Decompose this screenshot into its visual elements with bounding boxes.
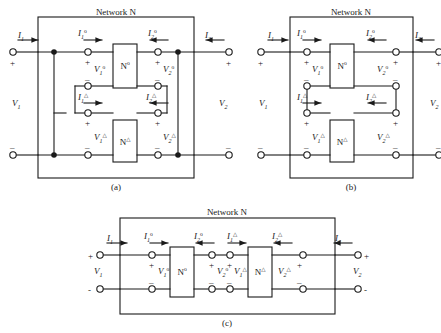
panel-a-port-ntri-2plus[interactable] (155, 110, 161, 116)
panel-b-port-ntri-2plus[interactable] (393, 110, 399, 116)
panel-a-port-ntri-1minus[interactable] (85, 152, 91, 158)
panel-b (258, 17, 441, 178)
panel-a-port-no-2plus[interactable] (155, 49, 161, 55)
panel-a-port-ntri-1plus[interactable] (85, 110, 91, 116)
panel-b-label-V2: V2 (430, 98, 439, 110)
panel-c-terminal-out-minus[interactable] (355, 286, 361, 292)
panel-a-block-no-label: No (120, 60, 130, 71)
panel-c-sign-no1-minus: – (148, 277, 154, 287)
panel-b-sign-out-minus: – (435, 142, 441, 152)
panel-c-label-V1: V1 (94, 266, 103, 278)
panel-b-sign-no2-plus: + (393, 57, 398, 67)
panel-b-port-no-2plus[interactable] (393, 49, 399, 55)
panel-c-label-I2o: I2o (193, 231, 203, 243)
panel-c-sign-no2-plus: + (209, 260, 214, 270)
panel-c-label-V2tri: V2△ (278, 266, 292, 278)
panel-c-label-I2tri: I2△ (271, 231, 283, 243)
panel-b-label-I2o: I2o (365, 28, 375, 40)
panel-a-frame (38, 17, 194, 178)
panel-a-sign-no2-minus: – (154, 74, 160, 84)
panel-a-sign-ntri2-minus: – (154, 142, 160, 152)
panel-c-sign-ntri1-minus: – (226, 277, 232, 287)
panel-c-label-I1: I1 (106, 233, 113, 245)
panel-a-label-I1tri: I1△ (77, 92, 89, 104)
panel-c-sign-no1-plus: + (149, 260, 154, 270)
panel-a-label-I2tri: I2△ (145, 92, 157, 104)
panel-a-label-V2o: V2o (163, 64, 175, 76)
panel-c-caption: (c) (222, 318, 232, 328)
panel-a-sign-no2-plus: + (155, 57, 160, 67)
panel-a-terminal-out-minus[interactable] (226, 152, 232, 158)
panel-b-label-V2o: V2o (377, 64, 389, 76)
panel-a-caption: (a) (111, 182, 121, 192)
panel-a-block-ntri-label: N△ (120, 136, 132, 147)
panel-b-port-ntri-2minus[interactable] (393, 152, 399, 158)
panel-c-block-ntri-label: N△ (255, 266, 267, 277)
panel-a-sign-out-plus: + (226, 58, 231, 68)
panel-a-label-I2o: I2o (147, 28, 157, 40)
panel-a (10, 17, 232, 178)
panel-c-port-no-1plus[interactable] (149, 252, 155, 258)
panel-b-sign-ntri2-minus: – (392, 142, 398, 152)
panel-b-port-ntri-1minus[interactable] (304, 152, 310, 158)
panel-a-sign-in-plus: + (10, 58, 15, 68)
panel-b-label-V2tri: V2△ (377, 132, 391, 144)
panel-a-network-label: Network N (96, 7, 137, 17)
panel-c-terminal-in-minus[interactable] (97, 286, 103, 292)
panel-b-label-V1: V1 (259, 98, 268, 110)
panel-c-sign-no2-minus: – (208, 277, 214, 287)
panel-a-terminal-in-plus[interactable] (10, 49, 16, 55)
panel-b-terminal-in-minus[interactable] (258, 152, 264, 158)
panel-a-label-I2: I2 (204, 30, 211, 42)
panel-a-label-V1tri: V1△ (94, 132, 108, 144)
circuit-diagram-svg: Network N (a) I1 I1o I2o I2 I1△ I2△ V1 V… (0, 0, 441, 333)
panel-b-label-V1o: V1o (312, 64, 324, 76)
panel-c-sign-ntri2-minus: – (296, 277, 302, 287)
panel-a-sign-out-minus: – (225, 142, 231, 152)
panel-c-label-V2: V2 (353, 266, 362, 278)
panel-c-terminal-out-plus[interactable] (355, 252, 361, 258)
panel-c-network-label: Network N (207, 207, 248, 217)
panel-b-caption: (b) (346, 182, 357, 192)
panel-b-terminal-out-minus[interactable] (436, 152, 441, 158)
panel-a-terminal-in-minus[interactable] (10, 152, 16, 158)
panel-b-port-ntri-1plus[interactable] (304, 110, 310, 116)
panel-a-sign-ntri1-minus: – (84, 142, 90, 152)
panel-b-label-I2tri: I2△ (365, 92, 377, 104)
panel-b-port-no-1plus[interactable] (304, 49, 310, 55)
panel-c-port-ntri-1plus[interactable] (227, 252, 233, 258)
panel-a-junction-bl (51, 152, 57, 158)
panel-b-sign-in-plus: + (258, 58, 263, 68)
panel-c-sign-out-plus: + (364, 251, 369, 261)
panel-b-label-V1tri: V1△ (312, 132, 326, 144)
panel-b-sign-no1-plus: + (304, 57, 309, 67)
panel-c-label-V1tri: V1△ (234, 266, 248, 278)
panel-b-sign-out-plus: + (436, 58, 441, 68)
panel-a-port-no-1plus[interactable] (85, 49, 91, 55)
panel-b-label-I1o: I1o (296, 28, 306, 40)
panel-b-sign-no2-minus: – (392, 74, 398, 84)
panel-b-label-I2: I2 (414, 30, 421, 42)
panel-c-label-I1tri: I1△ (226, 231, 238, 243)
panel-b-label-I1tri: I1△ (296, 92, 308, 104)
panel-c-terminal-in-plus[interactable] (97, 252, 103, 258)
panel-c-port-ntri-2plus[interactable] (300, 252, 306, 258)
panel-a-junction-tr (175, 49, 181, 55)
panel-c-port-no-2plus[interactable] (209, 252, 215, 258)
panel-a-sign-ntri2-plus: + (155, 118, 160, 128)
panel-a-terminal-out-plus[interactable] (226, 49, 232, 55)
panel-b-terminal-in-plus[interactable] (258, 49, 264, 55)
panel-c-sign-out-minus: - (364, 285, 367, 295)
panel-b-terminal-out-plus[interactable] (436, 49, 441, 55)
panel-a-sign-ntri1-plus: + (85, 118, 90, 128)
panel-a-label-I1o: I1o (77, 28, 87, 40)
panel-a-port-ntri-2minus[interactable] (155, 152, 161, 158)
panel-b-sign-ntri1-plus: + (304, 118, 309, 128)
panel-b-label-I1: I1 (267, 30, 274, 42)
panel-b-sign-ntri1-minus: – (303, 142, 309, 152)
panel-b-network-label: Network N (331, 7, 372, 17)
panel-a-sign-in-minus: – (9, 142, 15, 152)
panel-c-sign-in-minus: - (88, 285, 91, 295)
panel-c-sign-ntri2-plus: + (297, 260, 302, 270)
panel-c-block-no-label: No (177, 266, 187, 277)
